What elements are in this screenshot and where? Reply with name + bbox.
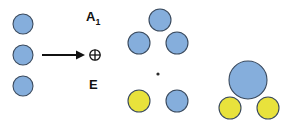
cluster-circle-top (149, 9, 171, 31)
label-a1-subscript: 1 (95, 17, 100, 27)
orbital-cluster-group (128, 9, 188, 112)
circled-plus-icon (90, 50, 100, 60)
arrow-head (76, 51, 85, 60)
chemistry-figure: A1 E (0, 0, 292, 123)
figure-canvas (0, 0, 292, 123)
cluster-circle-yellow-left (128, 90, 150, 112)
reactant-circle-1 (13, 14, 33, 34)
product-circle-yellow-right (257, 97, 279, 119)
product-cluster-group (219, 61, 279, 119)
reaction-arrow (42, 51, 85, 60)
cluster-center-dot (156, 72, 159, 75)
cluster-circle-right (166, 32, 188, 54)
cluster-circle-left (128, 32, 150, 54)
reactant-circle-3 (13, 76, 33, 96)
reactant-circle-2 (13, 45, 33, 65)
label-a1: A1 (86, 10, 100, 26)
reactant-stack-group (13, 14, 33, 96)
cluster-circle-blue-right (166, 90, 188, 112)
product-circle-large (229, 61, 267, 99)
product-circle-yellow-left (219, 97, 241, 119)
label-a1-base: A (86, 9, 95, 24)
label-e: E (89, 78, 98, 91)
